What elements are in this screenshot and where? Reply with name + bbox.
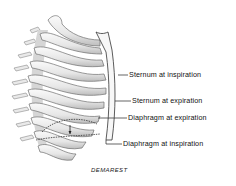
label-diaphragm-expiration: Diaphragm at expiration: [128, 113, 207, 122]
rib-cage-illustration: [0, 0, 236, 186]
label-sternum-expiration: Sternum at expiration: [132, 96, 202, 105]
label-sternum-inspiration: Sternum at inspiration: [129, 70, 201, 79]
label-diaphragm-inspiration: Diaphragm at inspiration: [123, 139, 203, 148]
artist-signature: DEMAREST: [91, 167, 128, 173]
rib-cage-diagram: Sternum at inspiration Sternum at expira…: [0, 0, 236, 186]
